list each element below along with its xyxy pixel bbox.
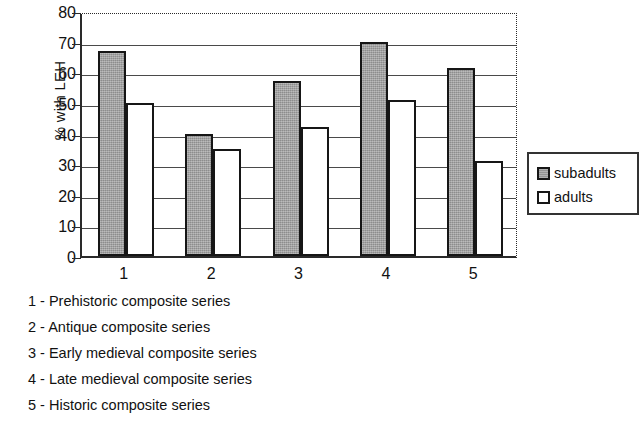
caption-line-4: 4 - Late medieval composite series [28,366,508,392]
y-axis-tick-labels: 80706050403020100 [40,0,76,275]
bar-series-container [82,14,516,256]
x-axis-tick-label-5: 5 [453,265,493,283]
caption-line-5: 5 - Historic composite series [28,392,508,418]
bar-subadults-5 [447,68,475,256]
bar-subadults-4 [360,42,388,256]
bar-adults-1 [126,103,154,256]
legend-item-subadults: subadults [537,161,637,185]
y-axis-tick-label: 60 [40,66,76,82]
chart-caption: 1 - Prehistoric composite series 2 - Ant… [28,288,508,418]
bar-adults-4 [388,100,416,256]
y-axis-tick-label: 80 [40,5,76,21]
y-axis-tick-label: 0 [40,250,76,266]
chart-figure: % with LEH 80706050403020100 12345 subad… [0,0,641,430]
bar-adults-5 [475,161,503,256]
legend-label-adults: adults [554,190,593,205]
x-axis-tick-labels: 12345 [80,265,517,289]
x-axis-tick-label-1: 1 [104,265,144,283]
caption-line-3: 3 - Early medieval composite series [28,340,508,366]
y-axis-tick-label: 10 [40,219,76,235]
caption-line-2: 2 - Antique composite series [28,314,508,340]
y-axis-tick-label: 40 [40,128,76,144]
bar-subadults-1 [98,51,126,256]
y-axis-tick-label: 30 [40,158,76,174]
legend-swatch-subadults-icon [537,167,550,180]
bar-adults-3 [301,127,329,256]
bar-adults-2 [213,149,241,256]
x-axis-tick-label-3: 3 [279,265,319,283]
bar-subadults-2 [185,134,213,257]
legend-label-subadults: subadults [554,166,616,181]
x-axis-tick-label-4: 4 [366,265,406,283]
legend-item-adults: adults [537,185,637,209]
chart-legend: subadults adults [527,152,639,215]
y-axis-tick-mark [72,258,81,259]
bar-subadults-3 [273,81,301,256]
legend-swatch-adults-icon [537,191,550,204]
y-axis-tick-label: 20 [40,189,76,205]
plot-area [80,13,517,258]
y-axis-tick-label: 50 [40,97,76,113]
x-axis-tick-label-2: 2 [191,265,231,283]
y-axis-tick-label: 70 [40,36,76,52]
caption-line-1: 1 - Prehistoric composite series [28,288,508,314]
